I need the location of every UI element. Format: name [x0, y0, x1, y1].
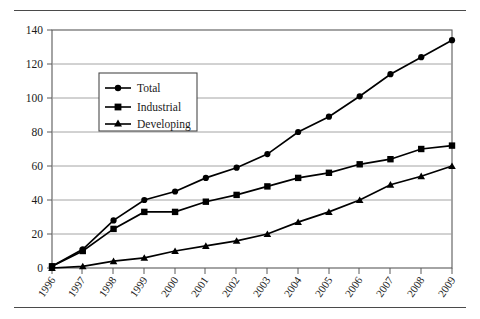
y-tick-label: 40	[32, 194, 44, 206]
circle-marker-icon	[172, 188, 178, 194]
circle-marker-icon	[115, 85, 121, 91]
plot-frame	[52, 30, 452, 268]
chart-figure: 140 120 100 80 60 40 20 0	[0, 0, 480, 319]
circle-marker-icon	[418, 54, 424, 60]
x-tick-label: 2002	[219, 274, 241, 299]
square-marker-icon	[233, 192, 239, 198]
x-axis-tick-labels: 1996 1997 1998 1999 2000 2001 2002 2003 …	[35, 274, 458, 299]
y-tick-label: 120	[26, 58, 44, 70]
circle-marker-icon	[264, 151, 270, 157]
line-chart-svg: 140 120 100 80 60 40 20 0	[0, 0, 480, 319]
x-tick-label: 1997	[65, 274, 88, 299]
x-tick-label: 2001	[188, 274, 210, 299]
y-tick-label: 20	[32, 228, 44, 240]
y-tick-label: 80	[32, 126, 44, 138]
y-tick-label: 0	[37, 262, 43, 274]
circle-marker-icon	[234, 165, 240, 171]
x-tick-label: 2005	[312, 274, 335, 299]
circle-marker-icon	[141, 197, 147, 203]
legend-item-label: Industrial	[137, 101, 181, 113]
circle-marker-icon	[326, 114, 332, 120]
x-tick-label: 2003	[250, 274, 273, 299]
circle-marker-icon	[387, 71, 393, 77]
square-marker-icon	[141, 209, 147, 215]
y-tick-marks	[47, 30, 52, 268]
legend-item-label: Developing	[137, 118, 191, 131]
circle-marker-icon	[449, 37, 455, 43]
x-tick-label: 1999	[127, 274, 150, 299]
y-tick-label: 60	[32, 160, 44, 172]
circle-marker-icon	[295, 129, 301, 135]
x-tick-label: 2008	[404, 274, 427, 299]
circle-marker-icon	[357, 93, 363, 99]
y-tick-label: 100	[26, 92, 44, 104]
x-tick-label: 2004	[281, 274, 304, 299]
square-marker-icon	[418, 146, 424, 152]
y-tick-label: 140	[26, 24, 44, 36]
square-marker-icon	[203, 199, 209, 205]
square-marker-icon	[387, 156, 393, 162]
x-tick-label: 2006	[342, 274, 365, 299]
x-tick-label: 2007	[373, 274, 396, 299]
square-marker-icon	[356, 161, 362, 167]
square-marker-icon	[115, 104, 122, 111]
square-marker-icon	[172, 209, 178, 215]
x-tick-marks	[52, 268, 452, 274]
square-marker-icon	[449, 142, 455, 148]
square-marker-icon	[295, 175, 301, 181]
x-tick-label: 1998	[96, 274, 119, 299]
x-tick-label: 1996	[35, 274, 58, 299]
legend-item-label: Total	[137, 82, 160, 94]
square-marker-icon	[110, 226, 116, 232]
y-axis-tick-labels: 140 120 100 80 60 40 20 0	[26, 24, 44, 274]
square-marker-icon	[80, 248, 86, 254]
circle-marker-icon	[110, 217, 116, 223]
circle-marker-icon	[203, 175, 209, 181]
x-tick-label: 2009	[435, 274, 458, 299]
chart-legend: Total Industrial Developing	[99, 73, 197, 131]
square-marker-icon	[326, 170, 332, 176]
square-marker-icon	[264, 183, 270, 189]
x-tick-label: 2000	[158, 274, 181, 299]
